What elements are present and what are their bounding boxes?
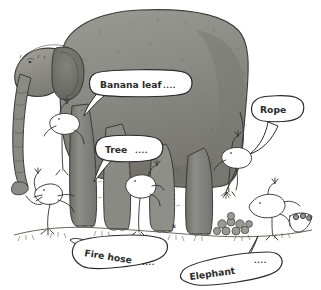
elephant-ear bbox=[52, 47, 84, 100]
bubble-tail-rope bbox=[250, 122, 278, 154]
bubble-dots-fire-hose: .... bbox=[142, 259, 155, 267]
elephant-trunk-tip bbox=[11, 182, 28, 195]
bubble-dots-banana-leaf: .... bbox=[163, 82, 176, 90]
speech-bubble-rope: Rope bbox=[250, 96, 304, 154]
dung-pile bbox=[213, 212, 252, 235]
speech-bubble-fire-hose: Fire hose .... bbox=[70, 235, 168, 268]
bubble-label-tree: Tree bbox=[105, 144, 127, 155]
ground-x-mark: x bbox=[172, 222, 176, 229]
bubble-dots-tree: .... bbox=[135, 147, 148, 155]
cartoon-illustration: x bbox=[0, 0, 321, 290]
figure-at-trunk bbox=[26, 168, 74, 235]
figure-at-dung bbox=[249, 178, 312, 240]
elephant-eye bbox=[29, 61, 32, 63]
elephant-trunk bbox=[13, 74, 31, 189]
bubble-label-rope: Rope bbox=[260, 104, 286, 115]
bubble-dots-elephant: .... bbox=[254, 257, 267, 265]
elephant-tail-tuft bbox=[221, 192, 231, 199]
speech-bubble-elephant: Elephant .... bbox=[180, 236, 282, 285]
cartoon-canvas: x bbox=[0, 0, 321, 290]
bubble-label-banana-leaf: Banana leaf bbox=[100, 79, 162, 90]
elephant-leg-back-right bbox=[186, 148, 213, 234]
